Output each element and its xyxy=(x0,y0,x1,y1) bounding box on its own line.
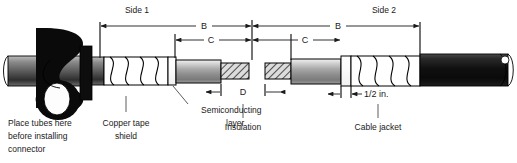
place-tubes-line2: before installing xyxy=(8,131,68,141)
semiconducting-layer-right-part xyxy=(341,56,351,86)
copper-tape-line2: shield xyxy=(115,131,137,141)
callout-place-tubes: Place tubes here before installing conne… xyxy=(8,118,72,154)
side-2-label: Side 2 xyxy=(372,5,396,15)
cable-jacket-right-part xyxy=(420,54,513,86)
dimension-half-inch-label: 1/2 in. xyxy=(364,89,389,99)
dimension-b-side1: B xyxy=(101,21,251,31)
copper-tape-shield-right-part xyxy=(351,56,420,86)
dimension-d-label: D xyxy=(240,87,247,97)
callout-copper-tape-shield: Copper tape shield xyxy=(103,118,150,141)
insulation-right-part xyxy=(291,59,341,84)
place-tubes-line3: connector xyxy=(8,144,45,154)
side-1-label: Side 1 xyxy=(125,5,149,15)
dimension-b-left-label: B xyxy=(201,21,207,31)
dimension-b-side2: B xyxy=(253,21,419,31)
conductor-hatched-left xyxy=(221,63,249,79)
dimension-c-side1: C xyxy=(176,35,251,45)
dimension-c-right-label: C xyxy=(302,35,309,45)
dimension-c-side2: C xyxy=(253,35,340,45)
copper-tape-shield-part xyxy=(104,57,168,85)
dimension-half-inch: 1/2 in. xyxy=(328,89,389,99)
place-tubes-line1: Place tubes here xyxy=(8,118,72,128)
cable-splice-diagram: B C B C D 1/2 in. Side 1 Side 2 xyxy=(0,0,517,163)
jacket-stub xyxy=(92,57,104,85)
callout-insulation: Insulation xyxy=(225,122,262,132)
cable-diagram-svg: B C B C D 1/2 in. Side 1 Side 2 xyxy=(0,0,517,163)
callout-cable-jacket: Cable jacket xyxy=(355,122,402,132)
dimension-d: D xyxy=(206,87,280,97)
insulation-left-part xyxy=(176,60,221,83)
dimension-b-right-label: B xyxy=(335,21,341,31)
semiconducting-layer-part xyxy=(168,57,176,85)
copper-tape-line1: Copper tape xyxy=(103,118,150,128)
semiconducting-line1: Semiconducting xyxy=(201,105,262,115)
conductor-hatched-right xyxy=(265,63,291,79)
dimension-c-left-label: C xyxy=(208,35,215,45)
